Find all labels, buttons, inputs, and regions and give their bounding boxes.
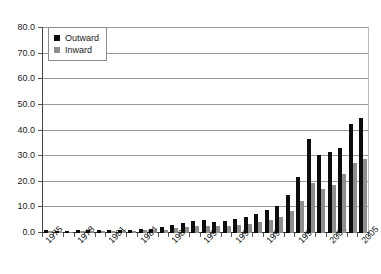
legend-label: Inward xyxy=(65,46,92,55)
bar-inward xyxy=(101,231,105,233)
x-tick-mark xyxy=(200,233,201,237)
bar-inward xyxy=(227,226,231,233)
x-tick-mark xyxy=(168,233,169,237)
x-tick-mark xyxy=(116,233,117,237)
bar-group xyxy=(189,27,200,233)
bar-group xyxy=(273,27,284,233)
bar-group xyxy=(147,27,158,233)
x-tick-mark xyxy=(315,233,316,237)
bar-inward xyxy=(69,232,73,233)
legend-swatch-inward xyxy=(54,47,60,53)
x-tick-mark xyxy=(263,233,264,237)
x-tick-mark xyxy=(242,233,243,237)
x-tick-mark xyxy=(273,233,274,237)
x-tick-mark xyxy=(221,233,222,237)
legend-label: Outward xyxy=(65,34,99,43)
bar-inward xyxy=(248,224,252,233)
bar-group xyxy=(231,27,242,233)
x-tick-mark xyxy=(210,233,211,237)
x-tick-mark xyxy=(305,233,306,237)
x-tick-mark xyxy=(95,233,96,237)
x-tick-mark xyxy=(84,233,85,237)
x-tick-mark xyxy=(357,233,358,237)
bar-group xyxy=(252,27,263,233)
bar-inward xyxy=(300,201,304,233)
bar-inward xyxy=(59,232,63,233)
x-tick-mark xyxy=(179,233,180,237)
x-tick-mark xyxy=(189,233,190,237)
x-tick-mark xyxy=(74,233,75,237)
bar-inward xyxy=(332,185,336,233)
legend-item-outward: Outward xyxy=(54,32,99,44)
x-tick-mark xyxy=(284,233,285,237)
legend-swatch-outward xyxy=(54,35,60,41)
bar-inward xyxy=(132,231,136,233)
bar-inward xyxy=(353,163,357,233)
bar-inward xyxy=(311,183,315,233)
legend: OutwardInward xyxy=(48,27,107,61)
y-axis-tick-label: 20.0 xyxy=(0,177,35,186)
bar-inward xyxy=(258,222,262,233)
y-axis-tick-label: 70.0 xyxy=(0,49,35,58)
x-tick-mark xyxy=(231,233,232,237)
bar-inward xyxy=(164,230,168,233)
bar-group xyxy=(294,27,305,233)
bar-inward xyxy=(290,211,294,233)
x-tick-mark xyxy=(137,233,138,237)
bar-group xyxy=(126,27,137,233)
bar-inward xyxy=(195,226,199,233)
bar-group xyxy=(357,27,368,233)
legend-item-inward: Inward xyxy=(54,44,99,56)
x-tick-mark xyxy=(42,233,43,237)
x-tick-mark xyxy=(53,233,54,237)
bar-inward xyxy=(342,174,346,233)
bar-inward xyxy=(279,217,283,233)
y-axis-tick-label: 60.0 xyxy=(0,74,35,83)
plot-frame-right xyxy=(368,27,369,233)
y-axis-tick-label: 40.0 xyxy=(0,126,35,135)
x-tick-mark xyxy=(347,233,348,237)
x-tick-mark xyxy=(63,233,64,237)
x-tick-mark xyxy=(294,233,295,237)
y-axis-tick-label: 50.0 xyxy=(0,100,35,109)
y-axis-tick-label: 30.0 xyxy=(0,151,35,160)
bar-group xyxy=(336,27,347,233)
bar-inward xyxy=(363,159,367,233)
y-axis-tick-label: 0.0 xyxy=(0,228,35,237)
x-tick-mark xyxy=(336,233,337,237)
bar-inward xyxy=(90,231,94,233)
bar-group xyxy=(168,27,179,233)
bar-inward xyxy=(321,189,325,233)
bar-group xyxy=(315,27,326,233)
bar-inward xyxy=(216,226,220,233)
bar-inward xyxy=(153,230,157,233)
x-tick-mark xyxy=(326,233,327,237)
bar-group xyxy=(210,27,221,233)
x-tick-mark xyxy=(158,233,159,237)
x-tick-mark xyxy=(126,233,127,237)
bar-inward xyxy=(122,231,126,233)
x-tick-mark xyxy=(368,233,369,237)
bar-inward xyxy=(185,227,189,233)
x-tick-mark xyxy=(105,233,106,237)
x-tick-mark xyxy=(147,233,148,237)
y-axis-tick-label: 10.0 xyxy=(0,202,35,211)
x-tick-mark xyxy=(252,233,253,237)
y-axis-tick-label: 80.0 xyxy=(0,23,35,32)
